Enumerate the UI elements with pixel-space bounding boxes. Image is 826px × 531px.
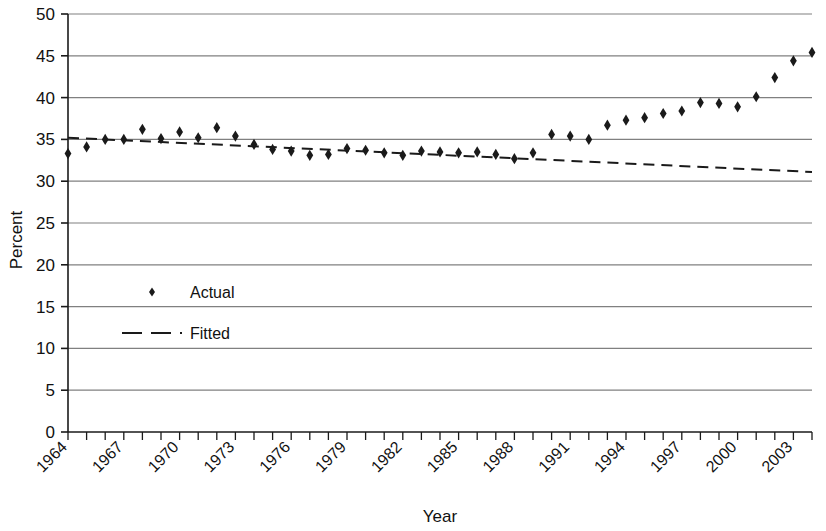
data-point-marker [623,115,630,126]
y-tick-label: 15 [36,298,55,317]
x-tick-label: 1970 [145,438,182,475]
data-point-marker [437,146,444,157]
data-point-marker [585,134,592,145]
data-point-marker [381,147,388,158]
data-point-marker [269,144,276,155]
y-tick-label: 30 [36,172,55,191]
x-tick-label: 1982 [368,438,405,475]
data-point-marker [753,91,760,102]
data-point-marker [139,124,146,135]
y-tick-labels: 05101520253035404550 [36,5,55,442]
data-point-marker [213,122,220,133]
x-tick-label: 1979 [312,438,349,475]
x-tick-label: 2003 [758,438,795,475]
data-point-marker [362,145,369,156]
x-tick-label: 1973 [200,438,237,475]
x-tick-label: 1964 [33,438,70,475]
x-tick-label: 1985 [424,438,461,475]
data-point-marker [102,134,109,145]
data-point-marker [120,134,127,145]
data-point-marker [660,108,667,119]
data-point-marker [641,112,648,123]
y-tick-label: 40 [36,89,55,108]
data-point-marker [176,126,183,137]
y-tick-label: 50 [36,5,55,24]
data-point-marker [548,129,555,140]
y-tick-label: 10 [36,339,55,358]
y-tick-label: 0 [46,423,55,442]
data-point-marker [418,146,425,157]
x-tick-label: 1991 [535,438,572,475]
x-tick-label: 1988 [479,438,516,475]
data-point-marker [65,148,72,159]
data-point-marker [734,101,741,112]
data-point-marker [455,147,462,158]
y-tick-label: 20 [36,256,55,275]
y-tick-label: 25 [36,214,55,233]
data-point-marker [511,153,518,164]
data-point-marker [83,141,90,152]
legend-marker-actual [149,288,155,297]
y-tick-label: 5 [46,381,55,400]
legend-label-fitted: Fitted [190,325,230,342]
data-point-marker [697,97,704,108]
y-tick-label: 45 [36,47,55,66]
x-tick-label: 1994 [591,438,628,475]
data-point-marker [678,105,685,116]
data-point-marker [716,98,723,109]
y-axis-title: Percent [7,210,26,269]
data-point-marker [771,72,778,83]
actual-series-markers [65,47,816,164]
data-point-marker [399,150,406,161]
legend-label-actual: Actual [190,284,234,301]
data-point-marker [530,147,537,158]
data-point-marker [306,150,313,161]
grid-lines [68,14,812,390]
chart-container: 05101520253035404550 1964196719701973197… [0,0,826,531]
x-tick-label: 1997 [647,438,684,475]
data-point-marker [344,143,351,154]
x-tick-label: 1976 [256,438,293,475]
data-point-marker [492,149,499,160]
x-tick-labels: 1964196719701973197619791982198519881991… [33,438,796,475]
y-tick-label: 35 [36,130,55,149]
data-point-marker [790,55,797,66]
x-axis [68,432,812,440]
percent-by-year-scatter-chart: 05101520253035404550 1964196719701973197… [0,0,826,531]
y-axis [61,14,68,432]
data-point-marker [195,132,202,143]
data-point-marker [604,120,611,131]
x-axis-title: Year [423,507,458,526]
data-point-marker [251,139,258,150]
data-point-marker [474,146,481,157]
chart-legend: ActualFitted [122,284,234,342]
x-tick-label: 2000 [703,438,740,475]
x-tick-label: 1967 [89,438,126,475]
